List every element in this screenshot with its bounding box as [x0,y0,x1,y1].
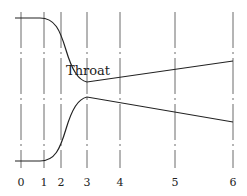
station-labels: 0123456 [18,176,237,189]
station-label-0: 0 [18,176,25,189]
station-label-2: 2 [58,176,65,189]
station-label-4: 4 [117,176,124,189]
upper-wall [15,18,233,82]
station-label-6: 6 [230,176,237,189]
station-label-1: 1 [41,176,48,189]
lower-wall [15,97,233,161]
station-label-5: 5 [172,176,179,189]
throat-label: Throat [66,63,111,78]
station-lines [21,12,233,168]
station-label-3: 3 [84,176,91,189]
nozzle-diagram: Throat 0123456 [0,0,247,196]
